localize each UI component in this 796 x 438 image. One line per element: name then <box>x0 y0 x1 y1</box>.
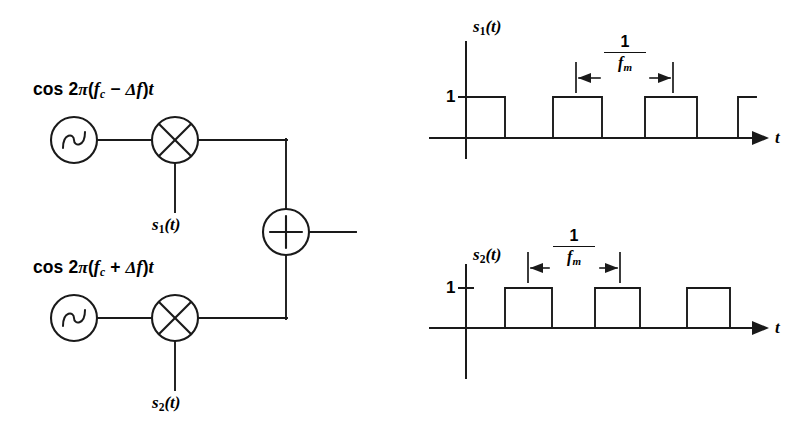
plot-s2-group <box>430 252 769 378</box>
s2-den-sub: m <box>572 255 581 267</box>
upper-branch-group <box>51 117 287 212</box>
figure-canvas: cos 2π(fc − Δf)t cos 2π(fc + Δf)t s1(t) … <box>0 0 796 438</box>
s1-plot-symbol: s <box>473 17 480 36</box>
s2-period-fraction: 1 fm <box>553 228 595 268</box>
s1-den-sub: m <box>623 61 632 73</box>
s1-period-denominator: fm <box>604 53 646 74</box>
s2-symbol: s <box>152 393 159 412</box>
carrier-label-lower: cos 2π(fc + Δf)t <box>33 258 154 279</box>
carrier-subscript-lower: c <box>100 266 105 278</box>
s1-x-axis-label: t <box>775 129 780 146</box>
s2-period-denominator: fm <box>553 247 595 268</box>
figure-vector-layer <box>0 0 796 438</box>
carrier-subscript-upper: c <box>100 88 105 100</box>
s2-plot-symbol: s <box>473 245 480 264</box>
carrier-delta-upper: Δ <box>125 79 136 99</box>
carrier-time-var-upper: t <box>149 79 154 99</box>
s2-amplitude-label: 1 <box>446 279 455 296</box>
s1-period-numerator: 1 <box>604 34 646 51</box>
s2-dim-arrow-left <box>530 263 543 273</box>
s1-x-axis-arrowhead <box>752 131 769 145</box>
s1-plot-y-axis-title: s1(t) <box>473 18 501 38</box>
s1-period-fraction: 1 fm <box>604 34 646 74</box>
carrier-pi-lower: π <box>78 257 88 277</box>
plot-s1-group <box>430 42 769 158</box>
carrier-delta-lower: Δ <box>125 257 136 277</box>
s1-waveform-trace <box>466 97 756 138</box>
s2-dim-arrow-right <box>605 263 618 273</box>
s1-dim-arrow-right <box>658 73 671 83</box>
s1-symbol: s <box>152 215 159 234</box>
carrier-sign-lower: + <box>110 257 120 277</box>
modulating-signal-label-s1: s1(t) <box>152 216 180 236</box>
summing-junction-group <box>263 209 356 255</box>
s2-plot-argument: (t) <box>485 245 501 264</box>
s2-x-axis-label: t <box>775 319 780 336</box>
carrier-prefix-lower: cos 2 <box>33 257 78 277</box>
carrier-sign-upper: − <box>110 79 120 99</box>
s2-waveform-trace <box>466 288 756 328</box>
s1-amplitude-label: 1 <box>446 88 455 105</box>
s1-plot-argument: (t) <box>485 17 501 36</box>
s2-period-numerator: 1 <box>553 228 595 245</box>
s1-argument: (t) <box>164 215 180 234</box>
carrier-prefix-upper: cos 2 <box>33 79 78 99</box>
carrier-label-upper: cos 2π(fc − Δf)t <box>33 80 154 101</box>
modulating-signal-label-s2: s2(t) <box>152 394 180 414</box>
s1-dim-arrow-left <box>578 73 591 83</box>
carrier-time-var-lower: t <box>149 257 154 277</box>
carrier-pi-upper: π <box>78 79 88 99</box>
s2-argument: (t) <box>164 393 180 412</box>
s2-plot-y-axis-title: s2(t) <box>473 246 501 266</box>
